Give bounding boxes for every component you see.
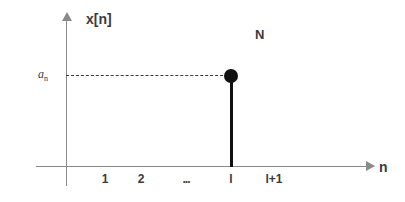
x-tick-label-l: l	[229, 172, 232, 186]
amplitude-tick-label: an	[38, 68, 48, 83]
stem-line	[230, 76, 233, 167]
arrow-right-icon	[366, 161, 375, 171]
signal-stem-plot: x[n] n N an 1 2 ... l l+1	[0, 0, 405, 202]
annotation-n-label: N	[255, 28, 264, 41]
x-tick-label-1: 1	[102, 172, 109, 186]
x-tick-label-l-plus-1: l+1	[265, 172, 282, 186]
amplitude-subscript: n	[44, 74, 48, 83]
arrow-up-icon	[62, 12, 72, 21]
y-axis-label: x[n]	[86, 12, 112, 26]
x-tick-label-ellipsis: ...	[182, 172, 189, 186]
x-axis-label: n	[379, 160, 388, 174]
x-tick-label-2: 2	[138, 172, 145, 186]
x-axis-line	[36, 166, 374, 167]
y-axis-line	[66, 20, 67, 186]
amplitude-guide-line	[66, 75, 233, 76]
filled-circle-icon	[224, 69, 238, 83]
